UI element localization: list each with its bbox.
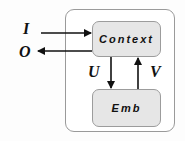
arrows-layer — [0, 0, 185, 141]
diagram-canvas: Context Emb I O U V — [0, 0, 185, 141]
